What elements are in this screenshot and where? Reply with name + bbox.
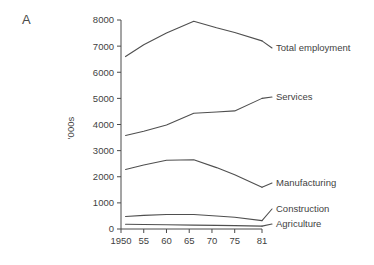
series-line [126,21,262,56]
series-label: Services [276,91,313,102]
x-axis-ticks: 1950556065707581 [110,229,267,246]
y-tick-label: 0 [109,223,114,234]
x-tick-label: 65 [184,235,195,246]
figure-panel: A 010002000300040005000600070008000 1950… [0,0,374,265]
y-tick-label: 2000 [93,171,114,182]
series-leader-line [262,41,272,48]
series-label: Manufacturing [276,177,336,188]
y-tick-label: 6000 [93,67,114,78]
series-leader-line [262,97,272,98]
series-label: Construction [276,203,329,214]
series-label: Agriculture [276,218,321,229]
series-line [126,215,262,221]
x-tick-label: 70 [207,235,218,246]
x-tick-label: 55 [138,235,149,246]
series-labels: Total employmentServicesManufacturingCon… [276,42,351,229]
y-tick-label: 4000 [93,119,114,130]
series-lines [126,21,272,226]
x-tick-label: 60 [161,235,172,246]
series-line [126,224,262,226]
x-tick-label: 1950 [110,235,131,246]
series-line [126,160,262,187]
x-tick-label: 75 [229,235,240,246]
y-tick-label: 3000 [93,145,114,156]
y-tick-label: 5000 [93,93,114,104]
y-tick-label: 1000 [93,197,114,208]
series-leader-line [262,224,272,226]
y-tick-label: 7000 [93,41,114,52]
line-chart: 010002000300040005000600070008000 195055… [0,0,374,265]
series-leader-line [262,209,272,221]
y-axis-title: '000s [65,117,76,140]
y-tick-label: 8000 [93,14,114,25]
series-line [126,98,262,135]
series-leader-line [262,183,272,187]
y-axis-ticks: 010002000300040005000600070008000 [93,14,121,234]
series-label: Total employment [276,42,351,53]
x-tick-label: 81 [257,235,268,246]
